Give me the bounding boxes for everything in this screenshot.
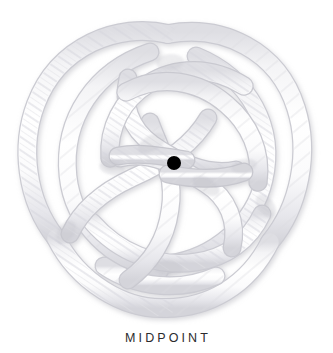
caption-label: MIDPOINT bbox=[0, 330, 333, 346]
rope-knot-figure bbox=[0, 0, 333, 325]
rope-knot-graphic bbox=[0, 0, 333, 325]
midpoint-marker-dot bbox=[167, 156, 181, 170]
rope-knot-illustration-page: MIDPOINT bbox=[0, 0, 333, 353]
